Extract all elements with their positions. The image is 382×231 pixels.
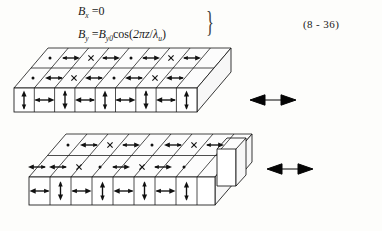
value-zero: 0 bbox=[98, 4, 104, 18]
equation-stack: Bx =0 By =By0cos(2πz/λu) bbox=[78, 2, 166, 49]
upper-front-face bbox=[14, 88, 197, 112]
symbol-B: B bbox=[98, 27, 105, 41]
upper-top-face bbox=[14, 48, 231, 88]
subscript-x: x bbox=[85, 11, 88, 20]
upper-motion-arrow[interactable] bbox=[250, 95, 296, 105]
lower-magnet-array[interactable] bbox=[28, 134, 252, 205]
lower-motion-arrow[interactable] bbox=[267, 164, 313, 174]
magnet-array-diagram bbox=[0, 46, 382, 231]
equation-number: (8 - 36) bbox=[303, 18, 339, 30]
lower-front-face bbox=[29, 177, 215, 205]
equation-block: Bx =0 By =By0cos(2πz/λu) } (8 - 36) bbox=[0, 0, 382, 48]
equation-line-bx: Bx =0 bbox=[78, 2, 166, 25]
subscript-y0: y0 bbox=[106, 35, 113, 44]
equation-brace: } bbox=[206, 2, 214, 40]
subscript-u: u bbox=[158, 35, 162, 44]
argument-2piz: 2πz bbox=[133, 27, 150, 41]
subscript-y: y bbox=[85, 35, 88, 44]
cos-operator: cos bbox=[113, 27, 129, 41]
upper-magnet-array[interactable] bbox=[14, 48, 231, 112]
